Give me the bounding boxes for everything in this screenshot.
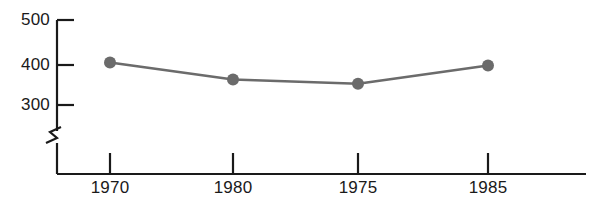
x-tick-label-1970: 1970 (75, 178, 145, 198)
y-tick-label-300: 300 (8, 95, 50, 115)
data-point-marker (104, 57, 116, 69)
data-point-marker (352, 78, 364, 90)
data-point-marker (227, 74, 239, 86)
x-tick-label-1975: 1975 (323, 178, 393, 198)
line-chart: 500 400 300 1970 1980 1975 1985 (0, 0, 604, 202)
x-tick-label-1980: 1980 (198, 178, 268, 198)
data-line-series-0 (110, 63, 488, 84)
x-tick-label-1985: 1985 (453, 178, 523, 198)
axis-break-icon (46, 127, 61, 143)
y-tick-label-400: 400 (8, 55, 50, 75)
data-point-marker (482, 60, 494, 72)
plot-area (0, 0, 604, 202)
y-tick-label-500: 500 (8, 10, 50, 30)
